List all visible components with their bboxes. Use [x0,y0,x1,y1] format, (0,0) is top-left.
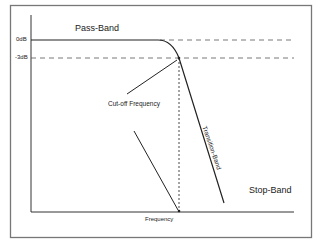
minus-3db-label: -3dB [15,54,28,60]
cutoff-point [178,57,181,60]
cutoff-frequency-label: Cut-off Frequency [108,100,160,107]
cutoff-pointer-upper [127,60,177,94]
pass-band-label: Pass-Band [75,23,119,33]
stop-band-label: Stop-Band [249,185,292,195]
cutoff-axis-point [178,210,181,213]
cutoff-pointer-lower [134,131,178,210]
filter-response-diagram [0,0,317,241]
response-curve [31,40,224,203]
zero-db-label: 0dB [16,36,27,42]
frequency-axis-label: Frequency [145,216,173,222]
